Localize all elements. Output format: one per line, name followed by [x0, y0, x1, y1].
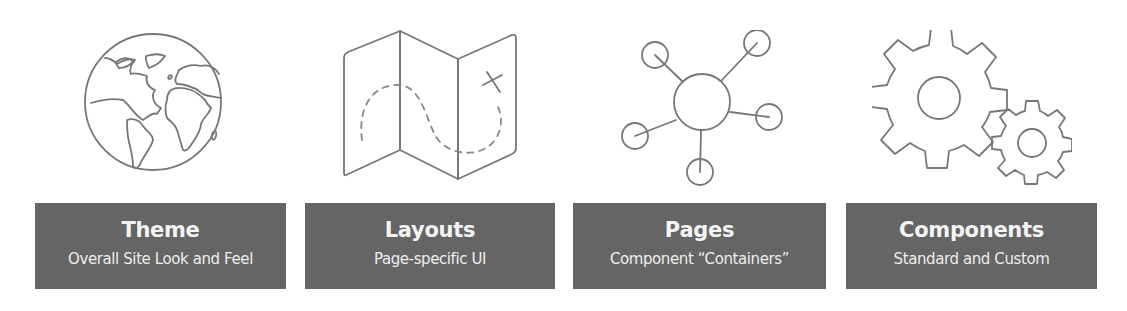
layouts-label-box: Layouts Page-specific UI — [305, 203, 555, 289]
network-hub-icon — [615, 30, 785, 190]
theme-label-box: Theme Overall Site Look and Feel — [35, 203, 286, 289]
layouts-subtitle: Page-specific UI — [305, 248, 555, 270]
gears-icon — [872, 30, 1072, 190]
layouts-title: Layouts — [305, 217, 555, 243]
components-label-box: Components Standard and Custom — [846, 203, 1097, 289]
pages-label-box: Pages Component “Containers” — [573, 203, 826, 289]
theme-subtitle: Overall Site Look and Feel — [35, 248, 286, 270]
globe-icon — [83, 30, 223, 175]
pages-title: Pages — [573, 217, 826, 243]
components-title: Components — [846, 217, 1097, 243]
components-subtitle: Standard and Custom — [846, 248, 1097, 270]
theme-title: Theme — [35, 217, 286, 243]
map-icon — [340, 30, 525, 185]
pages-subtitle: Component “Containers” — [573, 248, 826, 270]
